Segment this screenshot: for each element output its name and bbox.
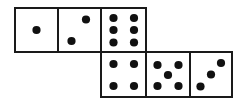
domino-figure-canvas: Domino chain puzzle A chain of six squar… — [0, 0, 247, 103]
pip-icon — [109, 26, 117, 34]
pip-icon — [109, 82, 117, 90]
pip-icon — [217, 59, 225, 67]
pip-icon — [130, 60, 138, 68]
domino-cell-1-pips — [32, 26, 40, 34]
pip-icon — [67, 37, 75, 45]
pip-icon — [164, 71, 172, 79]
pip-icon — [130, 14, 138, 22]
domino-cell-2 — [58, 8, 101, 52]
pip-icon — [153, 82, 161, 90]
domino-cell-3 — [101, 8, 146, 52]
pip-icon — [196, 82, 204, 90]
domino-chain-diagram — [0, 0, 247, 103]
pip-icon — [109, 38, 117, 46]
pip-icon — [109, 14, 117, 22]
pip-icon — [207, 70, 215, 78]
pip-icon — [174, 82, 182, 90]
pip-icon — [32, 26, 40, 34]
pip-icon — [130, 82, 138, 90]
pip-icon — [130, 38, 138, 46]
pip-icon — [153, 61, 161, 69]
domino-cell-4 — [101, 52, 146, 97]
pip-icon — [109, 60, 117, 68]
pip-icon — [82, 15, 90, 23]
pip-icon — [130, 26, 138, 34]
pip-icon — [174, 61, 182, 69]
